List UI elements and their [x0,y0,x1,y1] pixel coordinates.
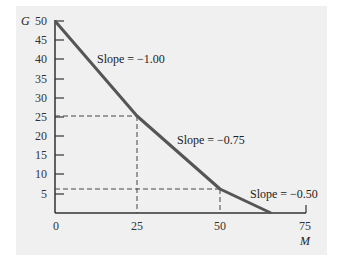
x-axis-label: M [299,234,311,248]
y-ticks [55,21,64,194]
y-tick-label: 40 [35,52,47,66]
y-tick-label: 25 [35,110,47,124]
x-tick-label: 75 [299,219,311,233]
y-tick-label: 10 [35,167,47,181]
slope-annotation: Slope = −1.00 [97,52,165,66]
x-tick-label: 50 [214,219,226,233]
y-tick-label: 5 [41,187,47,201]
slope-annotation: Slope = −0.75 [177,133,245,147]
y-tick-label: 20 [35,129,47,143]
y-tick-label: 35 [35,72,47,86]
y-axis-label: G [21,14,30,28]
chart: 50 45 40 35 30 25 20 15 10 5 0 25 50 75 … [0,0,338,263]
slope-annotation: Slope = −0.50 [250,187,318,201]
y-tick-label: 30 [35,91,47,105]
x-tick-label: 25 [131,219,143,233]
y-tick-label: 50 [35,14,47,28]
x-tick-label: 0 [53,219,59,233]
y-tick-label: 15 [35,148,47,162]
reference-lines [55,116,220,213]
y-tick-label: 45 [35,33,47,47]
budget-line [55,21,271,213]
